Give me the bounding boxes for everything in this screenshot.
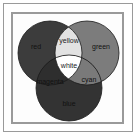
label-green: green: [92, 43, 110, 51]
label-cyan: cyan: [82, 76, 97, 84]
label-yellow: yellow: [59, 37, 79, 45]
label-magenta: magenta: [36, 78, 63, 86]
label-blue: blue: [62, 100, 75, 107]
venn-diagram: red yellow green white magenta cyan blue: [0, 0, 139, 138]
label-white: white: [60, 62, 77, 69]
label-red: red: [31, 43, 41, 50]
